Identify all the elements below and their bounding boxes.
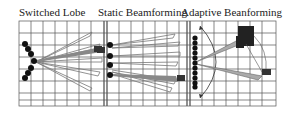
beam-to-user-2 <box>196 64 262 80</box>
adaptive-beamforming-panel <box>192 26 271 98</box>
static-beamforming-panel <box>97 34 185 92</box>
scan-arc <box>200 26 216 98</box>
beamforming-diagram <box>0 0 286 116</box>
target-building <box>236 26 254 48</box>
grid <box>19 21 276 106</box>
switched-lobe-panel <box>22 32 102 91</box>
beam-to-user-1 <box>196 40 241 62</box>
antenna-elements <box>22 41 37 81</box>
antenna-elements <box>107 42 113 78</box>
lobes <box>112 34 180 92</box>
target-icon <box>262 69 271 75</box>
target-icon-left <box>97 47 105 53</box>
antenna-elements <box>192 35 197 89</box>
target-icon <box>177 75 185 81</box>
multipath <box>254 36 266 72</box>
lobes <box>36 32 102 91</box>
